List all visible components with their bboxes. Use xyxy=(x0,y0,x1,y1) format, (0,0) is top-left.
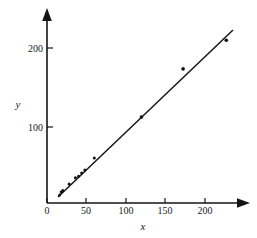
data-point xyxy=(74,176,77,179)
y-axis-title: y xyxy=(15,98,21,110)
data-point xyxy=(93,157,96,160)
x-tick-label-0: 0 xyxy=(45,205,50,216)
axes-group xyxy=(42,8,250,208)
data-point xyxy=(225,39,229,43)
y-tick-marks xyxy=(47,48,53,127)
data-point xyxy=(83,168,86,171)
x-tick-label-150: 150 xyxy=(158,205,173,216)
x-tick-label-200: 200 xyxy=(198,205,213,216)
data-point xyxy=(80,172,83,175)
y-tick-labels: 100 200 xyxy=(28,43,43,133)
data-point xyxy=(77,175,80,178)
y-tick-label-200: 200 xyxy=(28,43,43,54)
plot-canvas: 0 50 100 150 200 100 200 y x xyxy=(0,0,257,238)
x-tick-label-50: 50 xyxy=(81,205,91,216)
x-axis-title: x xyxy=(140,220,146,232)
x-tick-labels: 0 50 100 150 200 xyxy=(45,205,213,216)
data-point xyxy=(68,183,71,186)
data-point xyxy=(58,194,61,197)
scatter-plot-figure: 0 50 100 150 200 100 200 y x xyxy=(0,0,257,238)
data-point xyxy=(140,115,144,119)
data-point xyxy=(61,189,64,192)
data-point xyxy=(181,67,185,71)
x-tick-label-100: 100 xyxy=(119,205,134,216)
y-axis-arrow-icon xyxy=(42,8,52,21)
x-axis-arrow-icon xyxy=(237,198,250,208)
y-tick-label-100: 100 xyxy=(28,122,43,133)
fitted-regression-line xyxy=(58,30,233,197)
